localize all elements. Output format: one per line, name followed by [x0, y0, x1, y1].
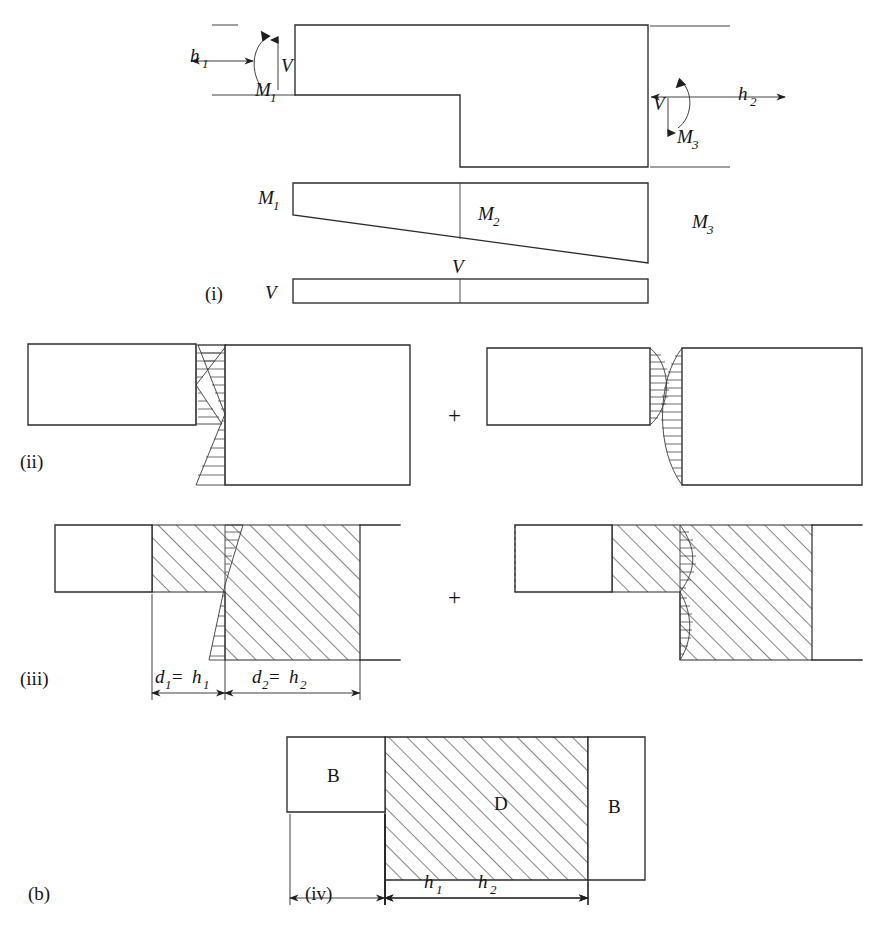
panel-label-iv: (iv): [305, 883, 332, 905]
panel-ii-shear-group: [487, 348, 862, 485]
label-h1-iv: h: [424, 871, 434, 892]
ii-upper-left-body: [28, 344, 196, 425]
figure-container: h 1 V M 1 V M 3 h 2: [0, 0, 888, 947]
label-region-b-right: B: [608, 796, 621, 817]
label-M3-beam-sub: 3: [691, 137, 699, 152]
label-d1-h1-sub: 1: [203, 677, 210, 692]
label-M2-diagram-sub: 2: [493, 214, 500, 229]
iii-dim-label-left: d 1 = h 1: [155, 666, 210, 692]
label-h2-iv-sub: 2: [490, 882, 497, 897]
label-V-diagram-left: V: [265, 282, 279, 303]
label-region-b-left: B: [327, 765, 340, 786]
ii-parabolic-stress-upper: [650, 348, 669, 425]
panel-label-ii: (ii): [20, 451, 43, 473]
label-d1-h1: h: [192, 666, 202, 687]
iii-left-b-region: [55, 525, 152, 592]
panel-iv: B D B: [287, 737, 645, 905]
ii-linear-stress-upper: [196, 345, 227, 424]
ii-r-lower-right-body: [682, 348, 862, 485]
dapped-beam-outline: [295, 25, 648, 167]
label-V-diagram-top: V: [452, 256, 466, 277]
bending-moment-diagram: M 1 M 2 M 3: [257, 183, 714, 263]
engineering-figure: h 1 V M 1 V M 3 h 2: [0, 0, 888, 947]
label-h1-left: h: [190, 45, 200, 66]
iv-d-region: [385, 737, 588, 880]
label-V-left: V: [281, 55, 295, 76]
figure-caption-b: (b): [28, 883, 50, 905]
dimension-h2-right: h 2: [650, 26, 785, 167]
iii-right-b-region: [515, 525, 612, 592]
label-d2-h2: h: [289, 666, 299, 687]
ii-hatch-parabola-lower: [661, 356, 682, 476]
panel-label-iii: (iii): [20, 668, 49, 690]
panel-iii-left-group: d 1 = h 1 d 2 = h 2: [55, 525, 400, 700]
label-h2-right: h: [738, 83, 748, 104]
shear-force-diagram: V V: [265, 256, 648, 303]
panel-ii-bending-group: [28, 344, 410, 485]
ii-lower-right-body: [225, 345, 410, 485]
iii-dim-label-right: d 2 = h 2: [252, 666, 307, 692]
label-h2-right-sub: 2: [750, 94, 757, 109]
label-region-d: D: [494, 793, 508, 814]
ii-r-upper-left-body: [487, 348, 650, 425]
label-d2: d: [252, 666, 262, 687]
ii-hatch-lower: [198, 353, 225, 475]
plus-operator-iii: +: [448, 585, 461, 610]
panel-iii-right-group: [515, 525, 862, 660]
label-d2-h2-sub: 2: [300, 677, 307, 692]
label-d2-equals: =: [269, 666, 280, 687]
panel-ii: +: [20, 344, 862, 485]
panel-label-i: (i): [205, 283, 223, 305]
panel-iii: d 1 = h 1 d 2 = h 2 +: [20, 525, 862, 700]
label-d1-equals: =: [172, 666, 183, 687]
plus-operator-ii: +: [448, 403, 461, 428]
label-h1-iv-sub: 1: [436, 882, 443, 897]
panel-i: h 1 V M 1 V M 3 h 2: [190, 25, 785, 305]
label-h2-iv: h: [478, 871, 488, 892]
label-M3-diagram-sub: 3: [706, 222, 714, 237]
iii-right-d-region: [612, 525, 812, 660]
label-V-right: V: [653, 93, 667, 114]
label-M1-beam-sub: 1: [270, 90, 277, 105]
label-h1-left-sub: 1: [202, 56, 209, 71]
label-d1-sub: 1: [165, 677, 172, 692]
iii-left-d-region: [152, 525, 360, 660]
label-d2-sub: 2: [262, 677, 269, 692]
load-arrows-right: V M 3: [653, 82, 699, 152]
label-d1: d: [155, 666, 165, 687]
label-M1-diagram-sub: 1: [273, 198, 280, 213]
